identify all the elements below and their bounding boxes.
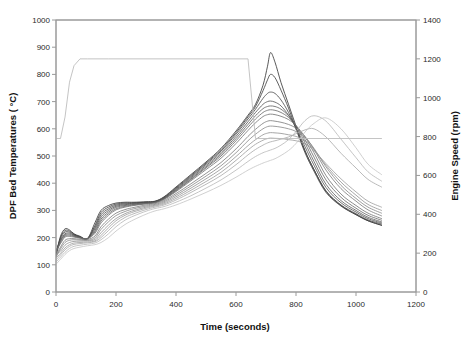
y-tick-label: 300 [37, 206, 51, 215]
y2-tick-label: 600 [423, 171, 437, 180]
y2-tick-label: 1400 [423, 16, 441, 25]
y-tick-label: 1000 [32, 16, 50, 25]
x-tick-label: 200 [109, 300, 123, 309]
y2-tick-label: 400 [423, 210, 437, 219]
x-tick-label: 1200 [407, 300, 425, 309]
y2-tick-label: 800 [423, 133, 437, 142]
x-tick-label: 1000 [347, 300, 365, 309]
y2-tick-label: 1200 [423, 55, 441, 64]
y-tick-label: 900 [37, 43, 51, 52]
y2-tick-label: 0 [423, 288, 428, 297]
x-tick-label: 0 [54, 300, 59, 309]
y-tick-label: 800 [37, 70, 51, 79]
y-tick-label: 700 [37, 98, 51, 107]
y-tick-label: 100 [37, 261, 51, 270]
y-tick-label: 200 [37, 234, 51, 243]
y-tick-label: 400 [37, 179, 51, 188]
y-tick-label: 600 [37, 125, 51, 134]
dpf-bed-temperature-chart: 0100200300400500600700800900100002004006… [0, 0, 470, 342]
x-tick-label: 400 [169, 300, 183, 309]
y2-axis-title: Engine Speed (rpm) [449, 111, 460, 201]
y-axis-title: DPF Bed Temperatures ( °C) [7, 93, 18, 220]
y-tick-label: 0 [46, 288, 51, 297]
x-tick-label: 600 [229, 300, 243, 309]
chart-figure: 0100200300400500600700800900100002004006… [0, 0, 470, 342]
y2-tick-label: 1000 [423, 94, 441, 103]
x-tick-label: 800 [289, 300, 303, 309]
x-axis-title: Time (seconds) [200, 321, 270, 332]
y2-tick-label: 200 [423, 249, 437, 258]
y-tick-label: 500 [37, 152, 51, 161]
